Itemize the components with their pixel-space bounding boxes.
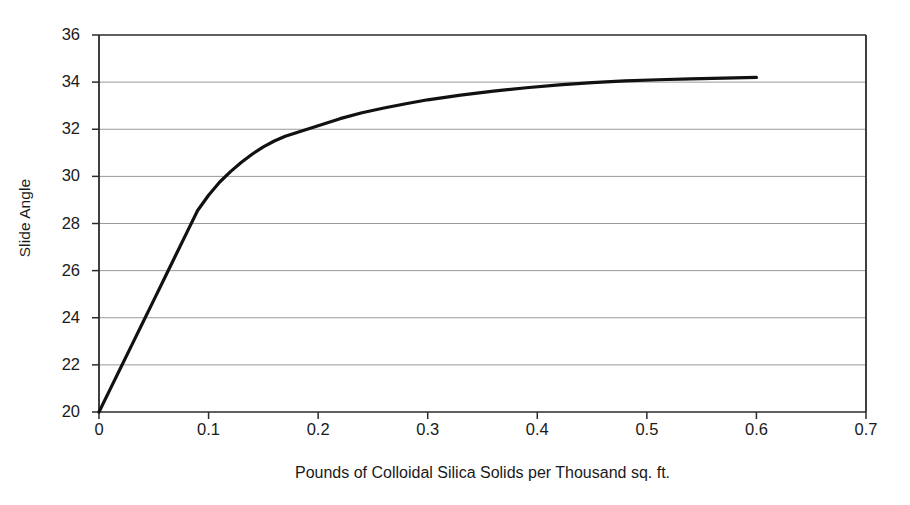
x-tick-label-text: 0.5 (617, 421, 677, 438)
y-tick-label-text: 28 (34, 215, 80, 232)
data-series-line-0 (99, 77, 756, 412)
y-tick-label-text: 30 (34, 167, 80, 184)
x-tick-label-text: 0.2 (288, 421, 348, 438)
x-tick-label-text: 0.1 (179, 421, 239, 438)
x-tick-label-text: 0.4 (507, 421, 567, 438)
y-tick-label-text: 36 (34, 26, 80, 43)
y-tick-label-text: 20 (34, 403, 80, 420)
x-tick-label-text: 0.6 (726, 421, 786, 438)
y-tick-label-text: 24 (34, 309, 80, 326)
y-tick-label-text: 26 (34, 262, 80, 279)
y-tick-label-text: 22 (34, 356, 80, 373)
y-tick-label-text: 34 (34, 73, 80, 90)
chart-figure: Slide Angle 202224262830323436 00.10.20.… (0, 0, 910, 505)
y-tick-label-text: 32 (34, 120, 80, 137)
x-tick-label-text: 0.7 (836, 421, 896, 438)
x-axis-title: Pounds of Colloidal Silica Solids per Th… (99, 464, 866, 482)
x-tick-label-text: 0 (69, 421, 129, 438)
x-tick-label-text: 0.3 (398, 421, 458, 438)
